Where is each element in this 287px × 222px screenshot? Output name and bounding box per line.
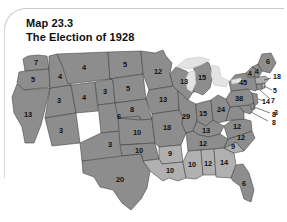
ev-label-MA: 18: [273, 73, 281, 80]
ev-label-WI: 13: [180, 77, 188, 86]
ev-label-NE: 8: [130, 105, 134, 114]
ev-label-OR: 5: [31, 75, 35, 84]
us-electoral-map: 7 5 13 4 3 4 3 4 3 6 3 5 5 8 10 10 20 12…: [0, 47, 287, 217]
ev-label-WV: 8: [272, 119, 276, 126]
ev-label-KY: 13: [202, 126, 210, 135]
ev-label-MS: 10: [188, 160, 196, 169]
map-number: Map 23.3: [26, 16, 134, 30]
ev-label-CT: 7: [271, 97, 275, 104]
leader-line-md: [251, 112, 268, 121]
ev-label-WA: 7: [34, 58, 38, 67]
ev-label-OH: 24: [217, 105, 226, 114]
ev-label-CA: 13: [24, 110, 32, 119]
ev-label-NC: 12: [237, 133, 245, 142]
lake-huron-erie-shape: [211, 65, 229, 87]
ev-label-SD: 5: [126, 84, 130, 93]
ev-label-NJ: 14: [262, 98, 270, 105]
ev-label-RI: 5: [273, 87, 277, 94]
ev-label-DE: 3: [274, 109, 278, 116]
ev-label-WY: 3: [103, 87, 107, 96]
ev-label-IA: 13: [159, 95, 167, 104]
ev-label-IN: 15: [199, 109, 207, 118]
ev-label-NY: 45: [239, 78, 247, 87]
ev-label-VA: 12: [233, 122, 241, 131]
ev-label-AZ: 3: [59, 126, 63, 135]
ev-label-ND: 5: [123, 60, 127, 69]
ev-label-NV: 3: [57, 96, 61, 105]
ev-label-ME: 6: [266, 57, 270, 66]
figure-title-block: Map 23.3 The Election of 1928: [26, 16, 134, 44]
ev-label-FL: 6: [242, 179, 246, 188]
ev-label-CO: 6: [117, 112, 121, 121]
page-title: The Election of 1928: [26, 30, 134, 44]
ev-label-NM: 3: [108, 140, 112, 149]
leader-line-de: [254, 107, 270, 113]
ev-label-NH: 4: [255, 68, 259, 75]
ev-label-LA: 10: [166, 166, 174, 175]
ev-label-IL: 29: [182, 112, 190, 121]
ev-label-MN: 12: [154, 67, 162, 76]
ev-label-MI: 15: [198, 73, 206, 82]
ev-label-TN: 12: [199, 139, 207, 148]
ev-label-SC: 9: [231, 142, 235, 151]
ev-label-MO: 18: [163, 123, 171, 132]
ev-label-AR: 9: [168, 149, 172, 158]
ev-label-AL: 12: [204, 159, 212, 168]
map-figure: Map 23.3 The Election of 1928: [0, 0, 287, 222]
state-RI: [262, 83, 265, 88]
ev-label-GA: 14: [220, 158, 229, 167]
ev-label-KS: 10: [133, 128, 141, 137]
ev-label-OK: 10: [135, 146, 143, 155]
ev-label-PA: 38: [235, 94, 243, 103]
ev-label-TX: 20: [116, 175, 124, 184]
ev-label-VT: 4: [248, 70, 252, 77]
